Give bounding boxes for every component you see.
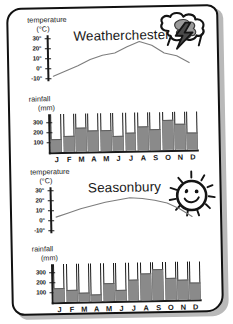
y-tick-label: 200: [33, 128, 43, 135]
month-label: M: [81, 305, 87, 314]
month-label: D: [193, 302, 199, 311]
month-label: F: [70, 305, 75, 314]
rainfall-caption-text: rainfall: [32, 244, 54, 253]
rainfall-bar: [115, 263, 127, 301]
rainfall-bar: [152, 263, 164, 301]
rainfall-bar: [137, 113, 149, 151]
rainfall-bar-fill: [174, 124, 185, 150]
month-label: O: [168, 303, 174, 312]
y-tick-label: 20°: [35, 196, 44, 203]
rainfall-bar-fill: [128, 279, 139, 301]
y-tick-label: 0°: [36, 64, 42, 71]
month-label: J: [132, 304, 136, 313]
rainfall-bar-chart: 300 200 100 JFMAMJJASOND: [51, 261, 202, 304]
rainfall-bar: [100, 113, 112, 151]
rainfall-bar-fill: [75, 128, 86, 152]
month-label: J: [119, 304, 123, 313]
rainfall-bar-fill: [190, 283, 201, 300]
rainfall-bar-fill: [152, 270, 163, 301]
month-label: M: [106, 304, 112, 313]
rainfall-bar: [128, 263, 140, 301]
y-tick-label: 300: [33, 118, 43, 125]
rainfall-bar: [88, 114, 100, 152]
y-tick-label: 30°: [32, 34, 41, 41]
temperature-caption-text: temperature: [30, 167, 70, 177]
month-label: A: [94, 304, 100, 313]
month-label: A: [143, 303, 149, 312]
rainfall-bars: [53, 262, 202, 303]
rainfall-bar: [174, 112, 186, 150]
rainfall-bar: [78, 264, 90, 302]
rainfall-axis-caption: rainfall (mm): [29, 94, 55, 112]
rainfall-bar: [103, 263, 115, 301]
rainfall-bar-fill: [63, 136, 74, 152]
rainfall-bar: [66, 264, 78, 302]
rainfall-bar: [149, 113, 161, 151]
rainfall-bar-fill: [165, 278, 176, 301]
rainfall-bar: [75, 114, 87, 152]
rainfall-bar-fill: [140, 273, 151, 301]
rainfall-bar-fill: [187, 132, 198, 150]
rainfall-bar: [53, 264, 65, 302]
temperature-unit-text: (°C): [27, 24, 67, 34]
rainfall-bar-fill: [66, 290, 77, 302]
temperature-caption-text: temperature: [27, 15, 67, 25]
y-tick-label: 10°: [36, 206, 45, 213]
rainfall-bar-fill: [51, 139, 62, 152]
page-content: Weatherchester temperature (°C): [6, 4, 224, 316]
rainfall-bar-fill: [54, 288, 65, 302]
rainfall-bar: [140, 263, 152, 301]
temperature-unit-text: (°C): [30, 176, 70, 186]
y-tick-label: -10°: [34, 226, 45, 233]
month-label: J: [57, 305, 61, 314]
rainfall-bar: [165, 262, 177, 300]
rainfall-bars: [50, 112, 199, 153]
rainfall-bar-fill: [100, 130, 111, 152]
y-tick-label: 20°: [32, 44, 41, 51]
y-tick-label: 300: [36, 268, 46, 275]
rainfall-bar: [112, 113, 124, 151]
y-tick-label: 0°: [39, 216, 45, 223]
climate-worksheet-page: Weatherchester temperature (°C): [0, 0, 233, 324]
month-label: S: [156, 303, 161, 312]
rainfall-bar: [177, 262, 189, 300]
temperature-line-chart: 30° 20° 10° 0° -10°: [50, 184, 201, 233]
temperature-curve: [50, 184, 201, 233]
rainfall-bar-fill: [177, 280, 188, 301]
y-tick-label: 10°: [33, 54, 42, 61]
rainfall-bar-fill: [125, 133, 136, 151]
temperature-axis-caption: temperature (°C): [27, 15, 67, 34]
month-label: N: [181, 303, 187, 312]
rainfall-bar-fill: [103, 283, 114, 302]
rainfall-bar-fill: [113, 136, 124, 151]
rainfall-bar-fill: [91, 295, 102, 302]
rainfall-bar: [125, 113, 137, 151]
temperature-curve: [47, 32, 198, 81]
rainfall-bar-fill: [162, 120, 173, 150]
temperature-line-chart: 30° 20° 10° 0° -10°: [47, 32, 198, 81]
climate-panel-weatherchester: Weatherchester temperature (°C): [6, 8, 221, 164]
rainfall-bar: [189, 262, 201, 300]
rainfall-unit-text: (mm): [32, 253, 58, 262]
rainfall-bar: [186, 112, 198, 150]
rainfall-bar-fill: [88, 130, 99, 152]
rainfall-unit-text: (mm): [29, 103, 55, 112]
rainfall-caption-text: rainfall: [29, 94, 51, 103]
rainfall-bar-fill: [137, 127, 148, 151]
rainfall-bar-fill: [79, 292, 90, 302]
temperature-axis-caption: temperature (°C): [30, 167, 70, 186]
rainfall-bar: [90, 264, 102, 302]
rainfall-bar-fill: [116, 290, 127, 302]
rainfall-bar: [162, 112, 174, 150]
y-tick-label: 100: [36, 288, 46, 295]
y-tick-label: 100: [33, 138, 43, 145]
rainfall-bar: [50, 114, 62, 152]
y-tick-label: -10°: [31, 74, 42, 81]
y-tick-label: 30°: [35, 186, 44, 193]
rainfall-bar-fill: [150, 129, 161, 151]
rainfall-bar-chart: 300 200 100 JFMAMJJASOND: [48, 111, 199, 154]
rainfall-axis-caption: rainfall (mm): [32, 244, 58, 262]
rainfall-bar: [63, 114, 75, 152]
y-tick-label: 200: [36, 278, 46, 285]
climate-panel-seasonbury: Seasonbury: [9, 160, 224, 314]
